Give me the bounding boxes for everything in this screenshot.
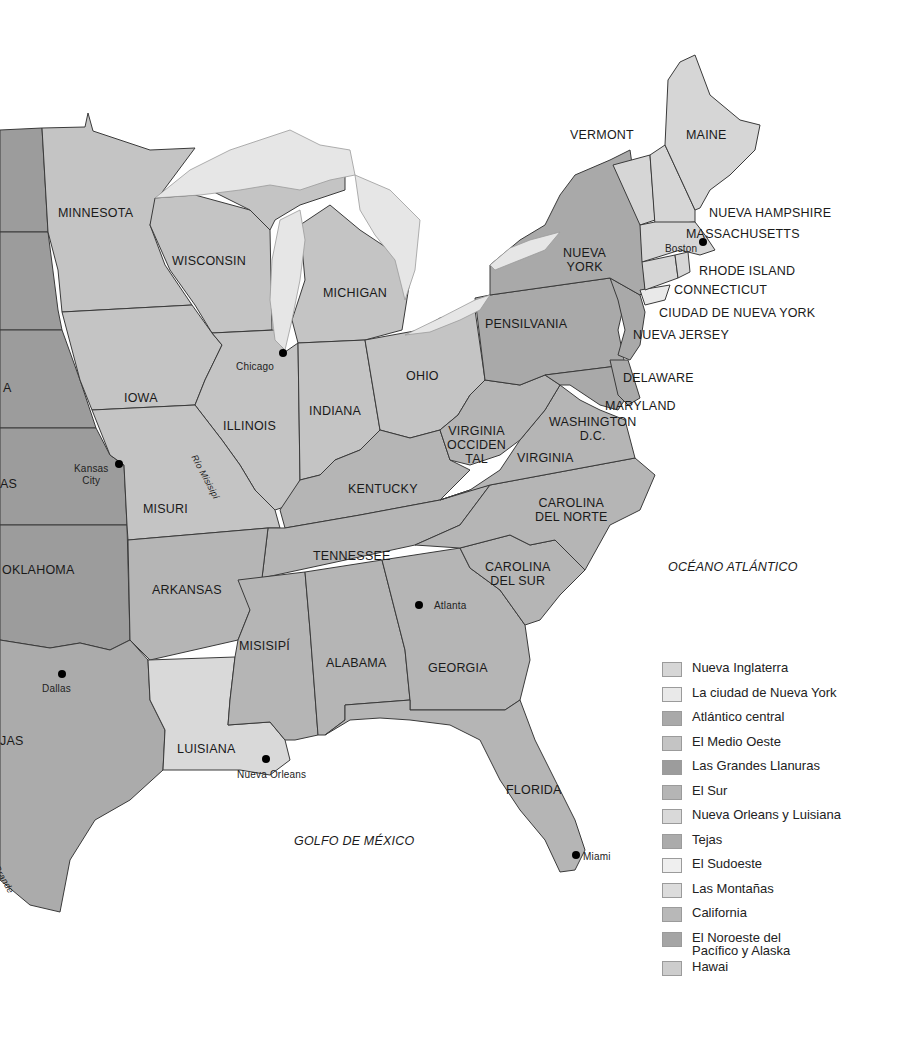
- label-kansas-city: Kansas City: [74, 463, 109, 487]
- label-dallas: Dallas: [42, 683, 71, 695]
- label-new-hampshire: NUEVA HAMPSHIRE: [709, 206, 831, 220]
- label-wv-line2: OCCIDEN: [447, 438, 506, 452]
- label-nc-line2: DEL NORTE: [535, 510, 608, 524]
- label-sc-line1: CAROLINA: [485, 560, 551, 574]
- legend-item-nueva-inglaterra: Nueva Inglaterra: [662, 661, 902, 686]
- label-kc-line1: Kansas: [74, 463, 109, 474]
- label-new-york-line1: NUEVA: [563, 246, 606, 260]
- label-atlantic-ocean: OCÉANO ATLÁNTICO: [668, 560, 798, 574]
- legend-swatch: [662, 711, 682, 726]
- label-wv-line3: TAL: [465, 452, 488, 466]
- label-missouri: MISURI: [143, 502, 188, 516]
- label-louisiana: LUISIANA: [177, 742, 236, 756]
- legend-item-sudoeste: El Sudoeste: [662, 857, 902, 882]
- label-chicago: Chicago: [236, 361, 274, 373]
- label-nebraska-partial: A: [3, 381, 12, 395]
- legend-label: El Noroeste del Pacífico y Alaska: [692, 931, 790, 957]
- label-new-york-line2: YORK: [566, 260, 602, 274]
- legend-label: El Sudoeste: [692, 857, 762, 870]
- label-minnesota: MINNESOTA: [58, 206, 133, 220]
- label-arkansas: ARKANSAS: [152, 583, 222, 597]
- label-virginia: VIRGINIA: [517, 451, 573, 465]
- label-wv-line1: VIRGINIA: [448, 424, 504, 438]
- legend-item-el-sur: El Sur: [662, 784, 902, 809]
- legend-swatch: [662, 858, 682, 873]
- label-maryland: MARYLAND: [605, 399, 676, 413]
- label-indiana: INDIANA: [309, 404, 361, 418]
- label-rhode-island: RHODE ISLAND: [699, 264, 795, 278]
- city-dot-dallas: [58, 670, 66, 678]
- city-dot-kansas-city: [115, 460, 123, 468]
- label-kc-line2: City: [82, 475, 100, 486]
- label-atlanta: Atlanta: [434, 600, 467, 612]
- region-oklahoma: [0, 525, 130, 650]
- label-tennessee: TENNESSEE: [313, 549, 391, 563]
- legend-swatch: [662, 785, 682, 800]
- label-michigan: MICHIGAN: [323, 286, 387, 300]
- label-wisconsin: WISCONSIN: [172, 254, 246, 268]
- legend-item-atlantico-central: Atlántico central: [662, 710, 902, 735]
- label-north-carolina: CAROLINA DEL NORTE: [535, 496, 608, 524]
- label-sc-line2: DEL SUR: [490, 574, 545, 588]
- legend-item-ciudad-nueva-york: La ciudad de Nueva York: [662, 686, 902, 711]
- city-dot-miami: [572, 851, 580, 859]
- label-oklahoma: OKLAHOMA: [2, 563, 74, 577]
- city-dot-boston: [699, 238, 707, 246]
- legend-label: Hawai: [692, 960, 728, 973]
- label-nc-line1: CAROLINA: [539, 496, 605, 510]
- legend-swatch: [662, 883, 682, 898]
- label-texas-partial: JAS: [0, 734, 24, 748]
- legend-label: Las Montañas: [692, 882, 774, 895]
- legend-label: California: [692, 906, 747, 919]
- label-illinois: ILLINOIS: [223, 419, 276, 433]
- label-mississippi: MISISIPÍ: [239, 639, 290, 653]
- legend-swatch: [662, 907, 682, 922]
- label-nyc: CIUDAD DE NUEVA YORK: [659, 306, 815, 320]
- label-new-orleans: Nueva Orleans: [237, 769, 306, 781]
- city-dot-new-orleans: [262, 755, 270, 763]
- label-georgia: GEORGIA: [428, 661, 488, 675]
- legend-item-grandes-llanuras: Las Grandes Llanuras: [662, 759, 902, 784]
- label-vermont: VERMONT: [570, 128, 634, 142]
- legend-swatch: [662, 834, 682, 849]
- label-washington-dc: WASHINGTON D.C.: [549, 415, 636, 443]
- legend-swatch: [662, 736, 682, 751]
- legend-label: El Medio Oeste: [692, 735, 781, 748]
- legend-label: El Sur: [692, 784, 727, 797]
- label-pennsylvania: PENSILVANIA: [485, 317, 567, 331]
- legend-swatch: [662, 760, 682, 775]
- label-boston: Boston: [665, 243, 697, 255]
- city-dot-chicago: [279, 349, 287, 357]
- legend-label: Tejas: [692, 833, 722, 846]
- legend-label: La ciudad de Nueva York: [692, 686, 837, 699]
- legend-swatch: [662, 932, 682, 947]
- legend-item-hawai: Hawai: [662, 960, 902, 985]
- label-west-virginia: VIRGINIA OCCIDEN TAL: [447, 424, 506, 466]
- legend-label: Las Grandes Llanuras: [692, 759, 820, 772]
- region-texas: [0, 640, 165, 912]
- legend-swatch: [662, 662, 682, 677]
- city-dot-atlanta: [415, 601, 423, 609]
- label-florida: FLORIDA: [506, 783, 562, 797]
- label-kansas-partial: AS: [0, 477, 17, 491]
- legend-item-noroeste-alaska: El Noroeste del Pacífico y Alaska: [662, 931, 902, 960]
- legend-label: Nueva Inglaterra: [692, 661, 788, 674]
- label-alabama: ALABAMA: [326, 656, 386, 670]
- legend-item-california: California: [662, 906, 902, 931]
- label-connecticut: CONNECTICUT: [674, 283, 767, 297]
- region-rhode-island: [675, 252, 690, 278]
- label-kentucky: KENTUCKY: [348, 482, 418, 496]
- label-maine: MAINE: [686, 128, 727, 142]
- legend: Nueva Inglaterra La ciudad de Nueva York…: [662, 661, 902, 984]
- legend-item-nueva-orleans: Nueva Orleans y Luisiana: [662, 808, 902, 833]
- legend-item-medio-oeste: El Medio Oeste: [662, 735, 902, 760]
- label-gulf-of-mexico: GOLFO DE MÉXICO: [294, 834, 414, 848]
- region-north-dakota: [0, 128, 48, 232]
- legend-item-tejas: Tejas: [662, 833, 902, 858]
- legend-item-montanas: Las Montañas: [662, 882, 902, 907]
- legend-swatch: [662, 961, 682, 976]
- label-ohio: OHIO: [406, 369, 439, 383]
- label-iowa: IOWA: [124, 391, 158, 405]
- label-south-carolina: CAROLINA DEL SUR: [485, 560, 551, 588]
- label-new-jersey: NUEVA JERSEY: [633, 328, 729, 342]
